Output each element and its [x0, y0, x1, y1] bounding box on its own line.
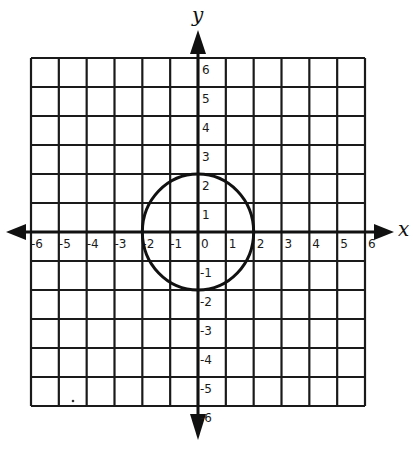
y-axis-label: y — [191, 3, 204, 27]
x-axis-right-arrow-icon — [374, 224, 394, 240]
y-tick-label: 5 — [202, 92, 210, 106]
x-axis-left-arrow-icon — [6, 224, 26, 240]
y-tick-label: -6 — [200, 411, 212, 425]
y-tick-label: -2 — [200, 295, 212, 309]
x-tick-label: 6 — [368, 237, 376, 251]
x-tick-labels: -6-5-4-3-2-10123456 — [31, 237, 376, 251]
y-tick-label: -3 — [200, 324, 212, 338]
y-tick-label: 6 — [202, 63, 210, 77]
x-tick-label: 5 — [340, 237, 348, 251]
y-tick-label: -4 — [200, 353, 212, 367]
y-tick-label: 4 — [202, 121, 210, 135]
y-tick-label: -1 — [200, 266, 212, 280]
x-tick-label: -5 — [59, 237, 71, 251]
x-tick-label: 4 — [312, 237, 320, 251]
y-tick-label: 1 — [202, 208, 210, 222]
x-tick-label: -3 — [115, 237, 127, 251]
x-tick-label: -1 — [170, 237, 182, 251]
x-tick-label: 2 — [257, 237, 265, 251]
coordinate-plane: x y -6-5-4-3-2-10123456 654321-1-2-3-4-5… — [0, 0, 413, 452]
x-tick-label: -4 — [87, 237, 99, 251]
stray-dot — [72, 400, 75, 403]
x-axis-label: x — [398, 217, 409, 241]
x-tick-label: -6 — [31, 237, 43, 251]
y-tick-label: 2 — [202, 179, 210, 193]
y-tick-label: 3 — [202, 150, 210, 164]
y-axis-up-arrow-icon — [190, 30, 206, 54]
y-tick-label: -5 — [200, 382, 212, 396]
x-tick-label: 0 — [201, 237, 209, 251]
x-tick-label: 3 — [285, 237, 293, 251]
x-tick-label: 1 — [229, 237, 237, 251]
